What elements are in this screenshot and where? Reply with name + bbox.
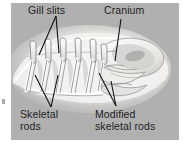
label-modified-skeletal-rods: Modified skeletal rods (95, 109, 155, 132)
label-gill-slits: Gill slits (28, 5, 65, 17)
label-skeletal-rods: Skeletal rods (20, 109, 58, 132)
figure-root: Gill slits Cranium Skeletal rods Modifie… (0, 0, 183, 147)
label-cranium: Cranium (104, 5, 144, 17)
page-edge-artifact (2, 99, 5, 104)
